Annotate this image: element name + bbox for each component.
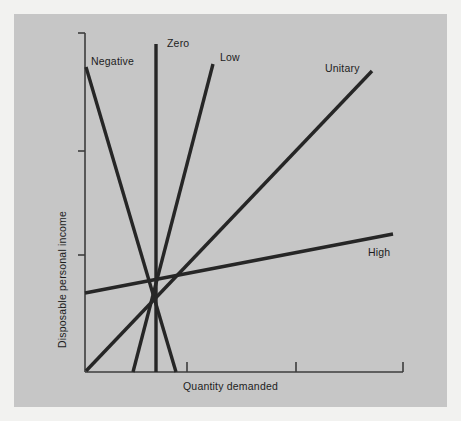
x-axis-title: Quantity demanded [0, 380, 461, 392]
series-label-unitary: Unitary [325, 62, 360, 74]
chart-page: Negative Zero Low Unitary High Quantity … [0, 0, 461, 421]
series-line-unitary [86, 71, 372, 371]
series-line-high [85, 234, 393, 293]
series-line-low [133, 64, 213, 372]
series-label-negative: Negative [91, 55, 134, 67]
series-label-high: High [368, 246, 390, 258]
y-axis-title: Disposable personal income [56, 48, 68, 348]
series-group [85, 44, 393, 372]
chart-canvas [0, 0, 461, 421]
series-label-low: Low [220, 51, 240, 63]
series-label-zero: Zero [167, 37, 189, 49]
